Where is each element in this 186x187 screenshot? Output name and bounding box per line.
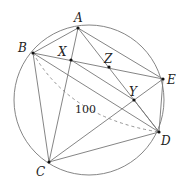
circumcircle — [14, 25, 164, 175]
point-label-z: Z — [103, 52, 113, 66]
point-a — [76, 26, 79, 29]
geometry-diagram: 100 ABXZEYDC — [0, 0, 186, 187]
segment-ed — [159, 79, 163, 132]
measure-label: 100 — [75, 103, 96, 116]
point-label-c: C — [36, 165, 45, 179]
segment-ab — [33, 28, 78, 53]
segment-ce — [49, 79, 163, 162]
diagram-canvas: 100 ABXZEYDC — [0, 0, 186, 187]
point-label-d: D — [160, 134, 171, 148]
segment-cd — [49, 132, 159, 162]
point-label-e: E — [166, 73, 176, 87]
point-b — [31, 51, 34, 54]
point-label-a: A — [73, 11, 83, 25]
segment-ae — [78, 28, 163, 79]
point-x — [69, 58, 72, 61]
point-label-b: B — [17, 41, 27, 55]
point-c — [47, 160, 50, 163]
segment-bc — [33, 53, 49, 162]
point-label-x: X — [57, 45, 67, 59]
points: ABXZEYDC — [17, 11, 176, 179]
point-e — [161, 77, 164, 80]
segment-xy — [71, 60, 134, 100]
point-label-y: Y — [129, 85, 138, 99]
segment-be — [33, 53, 163, 79]
segment-yd — [134, 100, 159, 132]
